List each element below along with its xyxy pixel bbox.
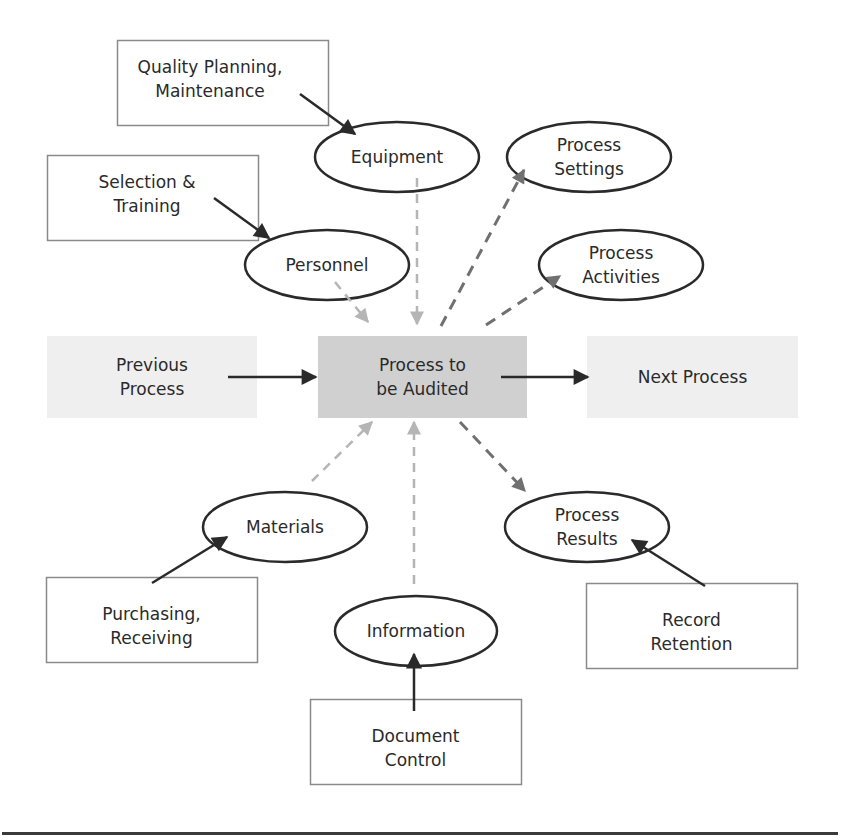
equipment-label: Equipment <box>315 122 479 192</box>
selection-training-label: Selection & Training <box>47 155 247 233</box>
arrow-center-to-results <box>460 422 525 491</box>
process-results-label: Process Results <box>505 492 669 562</box>
record-retention-label: Record Retention <box>586 595 797 668</box>
purchasing-receiving-label: Purchasing, Receiving <box>46 590 257 662</box>
previous-process-label: Previous Process <box>47 336 257 418</box>
personnel-label: Personnel <box>245 230 409 300</box>
bottom-rule <box>2 832 838 835</box>
arrow-center-to-settings <box>441 170 524 326</box>
document-control-label: Document Control <box>310 712 521 784</box>
quality-planning-label: Quality Planning, Maintenance <box>117 40 303 118</box>
arrow-materials-to-center <box>312 422 372 481</box>
next-process-label: Next Process <box>587 336 798 418</box>
process-activities-label: Process Activities <box>539 230 703 300</box>
process-settings-label: Process Settings <box>507 122 671 192</box>
center-process-label: Process to be Audited <box>318 336 527 418</box>
materials-label: Materials <box>203 492 367 562</box>
process-audit-diagram: Previous Process Process to be Audited N… <box>0 0 843 837</box>
information-label: Information <box>335 596 497 666</box>
